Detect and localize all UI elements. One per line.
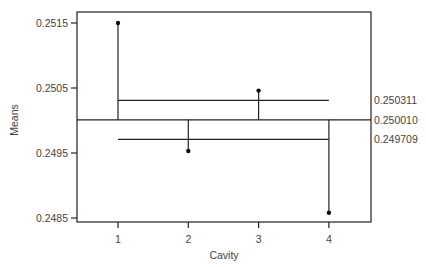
x-tick-label: 4: [326, 233, 332, 245]
x-tick-label: 2: [185, 233, 191, 245]
plot-frame: [77, 12, 371, 222]
decision-lines: [77, 100, 371, 139]
analysis-of-means-chart: 0.24850.24950.25050.2515 1234 0.2503110.…: [0, 0, 426, 267]
mean-stems: [118, 23, 329, 213]
x-tick-label: 3: [256, 233, 262, 245]
decision-line-label: 0.250010: [374, 114, 418, 126]
y-tick-label: 0.2515: [36, 17, 68, 29]
y-tick-label: 0.2485: [36, 212, 68, 224]
x-axis-label: Cavity: [209, 249, 239, 261]
x-axis: 1234: [115, 222, 332, 245]
mean-point: [327, 211, 331, 215]
mean-point: [186, 149, 190, 153]
y-axis: 0.24850.24950.25050.2515: [36, 17, 77, 224]
y-axis-label: Means: [8, 104, 20, 136]
y-tick-label: 0.2505: [36, 82, 68, 94]
mean-point: [256, 88, 260, 92]
decision-line-label: 0.249709: [374, 133, 418, 145]
decision-line-label: 0.250311: [374, 94, 417, 106]
y-tick-label: 0.2495: [36, 147, 68, 159]
mean-point: [116, 21, 120, 25]
decision-line-labels: 0.2503110.2500100.249709: [374, 94, 418, 145]
x-tick-label: 1: [115, 233, 121, 245]
mean-points: [116, 21, 331, 215]
